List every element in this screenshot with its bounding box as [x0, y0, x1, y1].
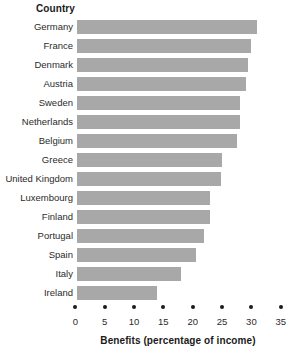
bar — [77, 210, 210, 224]
bar-row: Portugal — [0, 229, 290, 248]
bar-rows-container: GermanyFranceDenmarkAustriaSwedenNetherl… — [0, 20, 290, 305]
axis-tick-label: 0 — [60, 316, 90, 327]
bar-row: Netherlands — [0, 115, 290, 134]
bar-category-label: Germany — [0, 20, 75, 34]
axis-tick-dot — [279, 305, 283, 309]
axis-tick-dot — [103, 305, 107, 309]
bar-category-label: Finland — [0, 210, 75, 224]
bar-row: Ireland — [0, 286, 290, 305]
bar — [77, 229, 204, 243]
bar-category-label: Austria — [0, 77, 75, 91]
bar-row: Austria — [0, 77, 290, 96]
bar-category-label: Portugal — [0, 229, 75, 243]
bar — [77, 172, 221, 186]
bar — [77, 20, 257, 34]
bar-row: Italy — [0, 267, 290, 286]
bar-row: United Kingdom — [0, 172, 290, 191]
bar — [77, 134, 237, 148]
bar — [77, 267, 181, 281]
axis-tick-label: 20 — [178, 316, 208, 327]
axis-tick-dot — [161, 305, 165, 309]
bar — [77, 248, 196, 262]
bar-category-label: United Kingdom — [0, 172, 75, 186]
axis-tick-dot — [132, 305, 136, 309]
bar-row: Germany — [0, 20, 290, 39]
axis-tick-label: 5 — [90, 316, 120, 327]
axis-tick-dot — [73, 305, 77, 309]
bar — [77, 191, 210, 205]
bar-row: Finland — [0, 210, 290, 229]
category-axis-title: Country — [0, 3, 77, 14]
bar-row: Greece — [0, 153, 290, 172]
bar-category-label: France — [0, 39, 75, 53]
bar-category-label: Ireland — [0, 286, 75, 300]
bar — [77, 115, 240, 129]
axis-tick-label: 10 — [119, 316, 149, 327]
bar — [77, 286, 157, 300]
value-axis: 05101520253035 Benefits (percentage of i… — [0, 305, 290, 357]
bar-category-label: Spain — [0, 248, 75, 262]
axis-tick-dot — [249, 305, 253, 309]
bar-category-label: Greece — [0, 153, 75, 167]
axis-tick-label: 15 — [148, 316, 178, 327]
bar-row: Belgium — [0, 134, 290, 153]
axis-tick-dot — [220, 305, 224, 309]
value-axis-title-label: Benefits (percentage of income) — [100, 335, 255, 346]
axis-tick-label: 30 — [236, 316, 266, 327]
axis-tick-label: 25 — [207, 316, 237, 327]
axis-tick-label: 35 — [266, 316, 290, 327]
benefits-bar-chart: Country GermanyFranceDenmarkAustriaSwede… — [0, 0, 290, 357]
bar — [77, 58, 248, 72]
bar — [77, 96, 240, 110]
bar — [77, 39, 251, 53]
bar-row: Denmark — [0, 58, 290, 77]
bar-category-label: Italy — [0, 267, 75, 281]
bar — [77, 77, 246, 91]
bar-category-label: Luxembourg — [0, 191, 75, 205]
value-axis-title: Benefits (percentage of income) — [0, 335, 290, 346]
bar-row: Spain — [0, 248, 290, 267]
axis-tick-dot — [191, 305, 195, 309]
bar-category-label: Sweden — [0, 96, 75, 110]
bar-category-label: Denmark — [0, 58, 75, 72]
bar-row: France — [0, 39, 290, 58]
bar-row: Sweden — [0, 96, 290, 115]
bar-row: Luxembourg — [0, 191, 290, 210]
bar — [77, 153, 222, 167]
bar-category-label: Belgium — [0, 134, 75, 148]
bar-category-label: Netherlands — [0, 115, 75, 129]
